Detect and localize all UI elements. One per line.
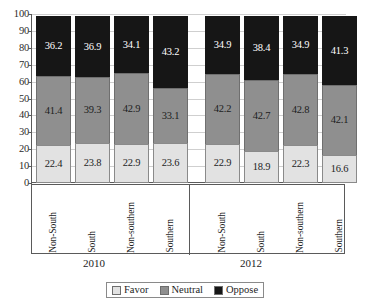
y-axis-tick-label: 0	[3, 178, 29, 189]
y-axis-tick	[28, 166, 32, 167]
gridline	[32, 14, 346, 15]
y-axis-tick	[28, 149, 32, 150]
bar-segment-neutral: 33.1	[153, 88, 188, 144]
y-axis-tick-label: 80	[3, 43, 29, 54]
bar-segment-value: 36.9	[84, 42, 102, 53]
legend-swatch-favor	[112, 286, 121, 295]
y-axis-tick	[28, 65, 32, 66]
group-label-2012: 2012	[188, 258, 314, 269]
bar-segment-value: 18.9	[253, 162, 271, 173]
bar-stack: 43.233.123.6	[153, 16, 188, 182]
bar-segment-favor: 23.6	[153, 143, 188, 183]
plot-area: 36.241.422.436.939.323.834.142.922.943.2…	[31, 14, 345, 183]
bar-stack: 36.939.323.8	[75, 16, 110, 182]
bar-segment-value: 22.9	[214, 158, 232, 169]
bar-segment-favor: 22.3	[283, 145, 318, 183]
y-axis-tick	[28, 132, 32, 133]
bar-segment-oppose: 34.9	[205, 16, 240, 75]
bar-segment-favor: 23.8	[75, 143, 110, 183]
bar-segment-favor: 16.6	[322, 155, 357, 183]
bar-segment-value: 41.3	[331, 46, 349, 57]
category-label-southern: Southern	[153, 187, 188, 253]
category-label-non-south: Non-South	[36, 187, 71, 253]
bar-segment-value: 39.3	[84, 105, 102, 116]
bar-segment-value: 22.9	[123, 158, 141, 169]
category-label-text: Southern	[166, 219, 176, 253]
bar-segment-value: 34.9	[214, 40, 232, 51]
bar-segment-oppose: 34.1	[114, 16, 149, 74]
category-label-text: Non-South	[218, 212, 228, 253]
category-label-text: South	[257, 231, 267, 253]
group-label-2010: 2010	[31, 258, 157, 269]
bar-segment-neutral: 42.2	[205, 74, 240, 145]
bar-segment-value: 23.6	[162, 158, 180, 169]
bar-segment-value: 42.7	[253, 111, 271, 122]
bar-segment-oppose: 41.3	[322, 16, 357, 86]
bar-segment-value: 22.4	[45, 159, 63, 170]
bar-segment-value: 42.1	[331, 115, 349, 126]
category-label-south: South	[244, 187, 279, 253]
y-axis-tick	[28, 82, 32, 83]
bar-segment-neutral: 42.9	[114, 73, 149, 146]
y-axis-tick-label: 20	[3, 144, 29, 155]
bar-segment-favor: 22.9	[205, 144, 240, 183]
bar-segment-value: 22.3	[292, 159, 310, 170]
y-axis-tick	[28, 99, 32, 100]
bar-stack: 38.442.718.9	[244, 16, 279, 182]
bar-segment-value: 23.8	[84, 158, 102, 169]
bar-segment-value: 42.8	[292, 105, 310, 116]
bar-segment-oppose: 36.9	[75, 16, 110, 78]
category-label-box: Non-SouthSouthNon-southernSouthernNon-So…	[31, 184, 345, 254]
bar-segment-value: 34.9	[292, 40, 310, 51]
bar-segment-oppose: 34.9	[283, 16, 318, 75]
bar-segment-value: 42.9	[123, 104, 141, 115]
category-label-non-south: Non-South	[205, 187, 240, 253]
bar-segment-favor: 22.4	[36, 145, 71, 183]
legend-item-favor: Favor	[112, 285, 149, 296]
category-label-non-southern: Non-southern	[114, 187, 149, 253]
legend-item-neutral: Neutral	[160, 285, 204, 296]
category-label-non-southern: Non-southern	[283, 187, 318, 253]
bar-segment-favor: 18.9	[244, 151, 279, 183]
y-axis-tick-label: 50	[3, 94, 29, 105]
legend-swatch-oppose	[214, 286, 223, 295]
bar-stack: 41.342.116.6	[322, 16, 357, 182]
y-axis-tick-label: 90	[3, 26, 29, 37]
bar-stack: 34.942.222.9	[205, 16, 240, 182]
bar-segment-value: 33.1	[162, 111, 180, 122]
category-label-southern: Southern	[322, 187, 357, 253]
bar-segment-value: 36.2	[45, 41, 63, 52]
y-axis-tick-label: 60	[3, 77, 29, 88]
bar-segment-value: 34.1	[123, 40, 141, 51]
legend-label: Favor	[124, 285, 149, 296]
bar-stack: 34.942.822.3	[283, 16, 318, 182]
bar-segment-neutral: 41.4	[36, 76, 71, 146]
legend-label: Oppose	[226, 285, 258, 296]
y-axis-tick-label: 30	[3, 127, 29, 138]
category-label-text: Southern	[335, 219, 345, 253]
bar-stack: 34.142.922.9	[114, 16, 149, 182]
bar-segment-oppose: 36.2	[36, 16, 71, 77]
category-label-text: South	[88, 231, 98, 253]
y-axis-tick-label: 100	[3, 9, 29, 20]
legend-swatch-neutral	[160, 286, 169, 295]
y-axis-tick	[28, 31, 32, 32]
y-axis-tick-label: 70	[3, 60, 29, 71]
bar-segment-neutral: 42.1	[322, 85, 357, 156]
bar-segment-oppose: 43.2	[153, 16, 188, 89]
legend-label: Neutral	[172, 285, 204, 296]
bar-segment-neutral: 42.7	[244, 80, 279, 152]
y-axis-tick	[28, 48, 32, 49]
bar-segment-value: 38.4	[253, 43, 271, 54]
category-label-text: Non-South	[49, 212, 59, 253]
bar-segment-oppose: 38.4	[244, 16, 279, 81]
bar-segment-value: 42.2	[214, 104, 232, 115]
bar-segment-value: 41.4	[45, 106, 63, 117]
bar-segment-neutral: 39.3	[75, 77, 110, 143]
bar-segment-neutral: 42.8	[283, 74, 318, 146]
bar-segment-value: 43.2	[162, 47, 180, 58]
bar-segment-favor: 22.9	[114, 144, 149, 183]
y-axis-tick-label: 40	[3, 110, 29, 121]
category-label-text: Non-southern	[296, 202, 306, 253]
y-axis-tick	[28, 14, 32, 15]
